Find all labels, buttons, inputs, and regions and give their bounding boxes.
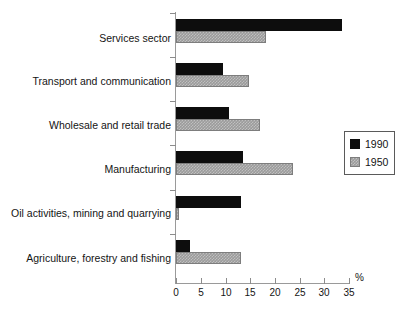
legend-label-1950: 1950 <box>365 157 388 168</box>
category-label-wholesale-and-retail-trade: Wholesale and retail trade <box>49 119 171 131</box>
x-axis-tick-label-10: 10 <box>220 287 231 298</box>
x-axis-tick <box>300 278 301 284</box>
category-label-oil-activities-mining-and-quarrying: Oil activities, mining and quarrying <box>11 207 171 219</box>
x-axis-tick-label-15: 15 <box>244 287 255 298</box>
bar-1950-agriculture-forestry-and-fishing <box>176 252 241 264</box>
bar-1990-wholesale-and-retail-trade <box>176 107 229 119</box>
x-axis-tick <box>324 278 325 284</box>
series-1950-swatch-icon <box>350 157 360 167</box>
bar-1950-wholesale-and-retail-trade <box>176 119 260 131</box>
bar-1950-manufacturing <box>176 163 293 175</box>
bar-1990-services-sector <box>176 19 342 31</box>
legend-item-1950: 1950 <box>350 155 388 169</box>
bar-1950-services-sector <box>176 31 266 43</box>
category-label-manufacturing: Manufacturing <box>104 163 171 175</box>
x-axis-tick <box>201 278 202 284</box>
x-axis-tick <box>176 278 177 284</box>
x-axis-tick-label-20: 20 <box>269 287 280 298</box>
x-axis-tick <box>250 278 251 284</box>
x-axis-tick-label-5: 5 <box>198 287 204 298</box>
x-axis-tick-label-30: 30 <box>318 287 329 298</box>
grouped-bar-chart: Services sector Transport and communicat… <box>0 0 405 314</box>
bar-1950-oil-activities-mining-and-quarrying <box>176 208 179 220</box>
bar-1950-transport-and-communication <box>176 75 249 87</box>
category-label-agriculture-forestry-and-fishing: Agriculture, forestry and fishing <box>26 252 171 264</box>
bar-1990-manufacturing <box>176 151 243 163</box>
legend-label-1990: 1990 <box>365 139 388 150</box>
bar-1990-transport-and-communication <box>176 63 223 75</box>
plot-area <box>176 14 349 282</box>
bar-1990-oil-activities-mining-and-quarrying <box>176 196 241 208</box>
x-axis-tick <box>275 278 276 284</box>
category-label-transport-and-communication: Transport and communication <box>32 75 171 87</box>
chart-legend: 1990 1950 <box>344 131 395 175</box>
x-axis-tick-label-35: 35 <box>343 287 354 298</box>
x-axis-tick <box>349 278 350 284</box>
bar-1990-agriculture-forestry-and-fishing <box>176 240 190 252</box>
legend-item-1990: 1990 <box>350 137 388 151</box>
category-label-services-sector: Services sector <box>99 32 171 44</box>
x-axis-tick-label-25: 25 <box>294 287 305 298</box>
series-1990-swatch-icon <box>350 139 360 149</box>
x-axis-unit-label: % <box>355 272 364 283</box>
x-axis-tick-label-0: 0 <box>173 287 179 298</box>
x-axis-tick <box>226 278 227 284</box>
